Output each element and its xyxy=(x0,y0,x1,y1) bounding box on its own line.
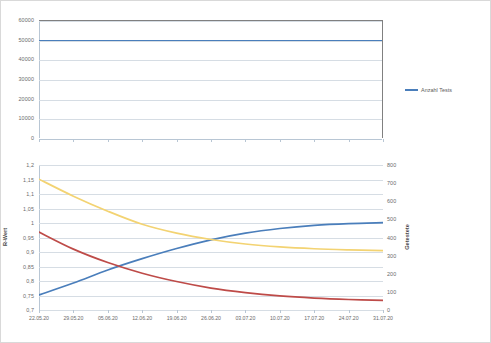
y-tick-label-right: 800 xyxy=(387,162,407,168)
tests-plot-area xyxy=(39,20,383,138)
r-wert-chart: 1,21,151,11,0510,950,90,850,80,750,7 800… xyxy=(1,156,491,343)
series-positiv-getestete xyxy=(39,179,383,250)
y-tick-label-left: 0,8 xyxy=(1,278,34,284)
y-tick-label-right: 0 xyxy=(387,307,407,313)
y-tick-label-left: 0,7 xyxy=(1,307,34,313)
x-tick xyxy=(383,310,384,313)
x-tick-label: 22.05.20 xyxy=(22,315,56,321)
x-tick xyxy=(280,310,281,313)
legend-swatch xyxy=(405,89,418,91)
y-tick-label: 30000 xyxy=(1,76,34,82)
x-tick-label: 29.05.20 xyxy=(56,315,90,321)
x-tick-label: 31.07.20 xyxy=(366,315,400,321)
x-tick xyxy=(383,139,384,142)
gridline xyxy=(39,60,382,61)
y-tick-label-left: 1,05 xyxy=(1,206,34,212)
tests-chart: 0100002000030000400005000060000 Anzahl T… xyxy=(1,1,491,156)
y-tick-label-right: 200 xyxy=(387,271,407,277)
legend-item[interactable]: Anzahl Tests xyxy=(405,85,452,95)
x-tick xyxy=(245,310,246,313)
x-tick xyxy=(177,139,178,142)
y-tick-label-right: 600 xyxy=(387,198,407,204)
x-tick xyxy=(108,139,109,142)
gridline xyxy=(39,21,382,22)
left-axis-title: R-Wert xyxy=(2,227,8,245)
series-tats-chl-infizierte xyxy=(39,232,383,300)
x-tick xyxy=(177,310,178,313)
x-tick xyxy=(39,310,40,313)
gridline xyxy=(39,80,382,81)
x-tick-label: 10.07.20 xyxy=(263,315,297,321)
y-tick-label-left: 0,85 xyxy=(1,264,34,270)
y-tick-label: 20000 xyxy=(1,96,34,102)
y-tick-label: 0 xyxy=(1,135,34,141)
x-tick xyxy=(245,139,246,142)
y-tick-label-left: 1 xyxy=(1,220,34,226)
x-tick-label: 05.06.20 xyxy=(91,315,125,321)
y-tick-label-left: 0,9 xyxy=(1,249,34,255)
x-tick-label: 24.07.20 xyxy=(332,315,366,321)
y-tick-label-right: 100 xyxy=(387,289,407,295)
series-r-wert xyxy=(39,223,383,295)
legend-label: Anzahl Tests xyxy=(421,87,452,93)
x-tick xyxy=(280,139,281,142)
right-axis-title: Getestete xyxy=(404,224,410,250)
y-tick-label-right: 500 xyxy=(387,216,407,222)
r-wert-plot-area xyxy=(39,165,383,310)
x-tick-label: 19.06.20 xyxy=(160,315,194,321)
tests-legend: Anzahl Tests xyxy=(405,85,452,98)
x-tick xyxy=(211,139,212,142)
x-tick xyxy=(39,139,40,142)
x-tick xyxy=(73,310,74,313)
x-tick xyxy=(142,139,143,142)
x-tick xyxy=(349,139,350,142)
y-tick-label: 10000 xyxy=(1,115,34,121)
y-tick-label: 60000 xyxy=(1,17,34,23)
y-tick-label: 50000 xyxy=(1,37,34,43)
r-wert-series-svg xyxy=(39,165,383,310)
y-tick-label-left: 0,75 xyxy=(1,293,34,299)
x-tick xyxy=(211,310,212,313)
x-tick-label: 03.07.20 xyxy=(228,315,262,321)
x-tick xyxy=(73,139,74,142)
gridline xyxy=(39,119,382,120)
x-tick xyxy=(349,310,350,313)
x-tick-label: 12.06.20 xyxy=(125,315,159,321)
y-tick-label-right: 300 xyxy=(387,253,407,259)
x-tick xyxy=(314,310,315,313)
gridline xyxy=(39,100,382,101)
y-tick-label-left: 1,15 xyxy=(1,177,34,183)
x-tick xyxy=(142,310,143,313)
y-tick-label: 40000 xyxy=(1,56,34,62)
series-anzahl-tests xyxy=(39,40,382,42)
x-tick-label: 26.06.20 xyxy=(194,315,228,321)
x-tick xyxy=(314,139,315,142)
chart-page: 0100002000030000400005000060000 Anzahl T… xyxy=(0,0,491,343)
y-tick-label-left: 1,1 xyxy=(1,191,34,197)
y-tick-label-left: 1,2 xyxy=(1,162,34,168)
x-tick xyxy=(108,310,109,313)
x-tick-label: 17.07.20 xyxy=(297,315,331,321)
y-tick-label-right: 700 xyxy=(387,180,407,186)
